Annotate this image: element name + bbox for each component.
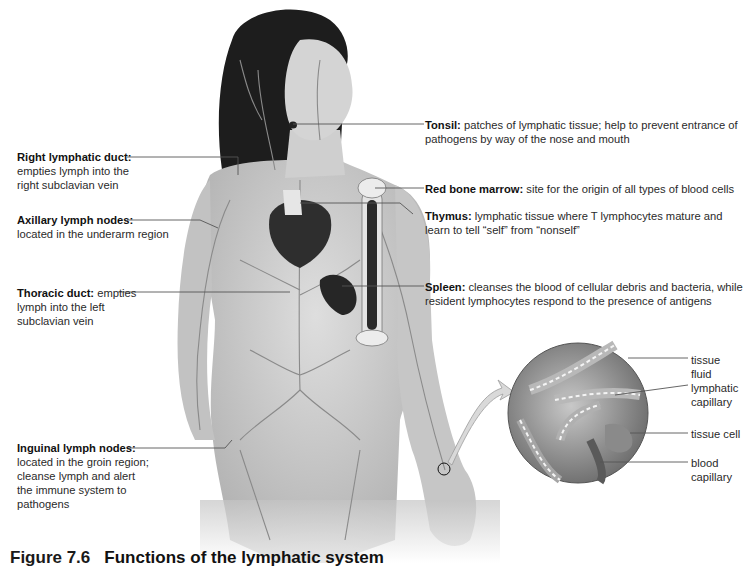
label-line: pathogens	[17, 498, 69, 510]
label-red-bone-marrow: Red bone marrow: site for the origin of …	[425, 182, 734, 196]
label-title: Axillary lymph nodes:	[17, 214, 133, 226]
figure-caption-text: Functions of the lymphatic system	[104, 548, 384, 567]
label-title: Inguinal lymph nodes:	[17, 442, 136, 454]
label-line: empties	[94, 287, 136, 299]
label-line: tissue cell	[691, 428, 740, 440]
label-blood-capillary: blood capillary	[691, 456, 732, 484]
label-title: Tonsil:	[425, 119, 461, 131]
figure-number: Figure 7.6	[10, 548, 90, 567]
label-line: resident lymphocytes respond to the pres…	[425, 295, 712, 307]
label-line: lymph into the left	[17, 301, 105, 313]
label-line: tissue	[691, 354, 720, 366]
label-line: right subclavian vein	[17, 179, 118, 191]
label-thymus: Thymus: lymphatic tissue where T lymphoc…	[425, 209, 722, 237]
label-line: cleanse lymph and alert	[17, 470, 135, 482]
figure-caption: Figure 7.6Functions of the lymphatic sys…	[10, 548, 384, 568]
magnify-arrow	[448, 380, 514, 465]
label-line: pathogens by way of the nose and mouth	[425, 133, 630, 145]
label-thoracic-duct: Thoracic duct: empties lymph into the le…	[17, 286, 136, 328]
tonsil	[289, 122, 297, 129]
label-line: the immune system to	[17, 484, 126, 496]
label-line: fluid	[691, 368, 712, 380]
label-line: located in the groin region;	[17, 456, 149, 468]
label-tonsil: Tonsil: patches of lymphatic tissue; hel…	[425, 118, 738, 146]
thymus	[283, 190, 302, 215]
label-line: lymphatic	[691, 382, 738, 394]
label-line: subclavian vein	[17, 315, 94, 327]
label-line: site for the origin of all types of bloo…	[523, 183, 734, 195]
label-right-lymphatic-duct: Right lymphatic duct: empties lymph into…	[17, 150, 131, 192]
label-title: Spleen:	[425, 281, 465, 293]
label-lymphatic-capillary: lymphatic capillary	[691, 381, 738, 409]
label-line: capillary	[691, 471, 732, 483]
label-line: capillary	[691, 396, 732, 408]
label-line: located in the underarm region	[17, 228, 169, 240]
label-axillary-lymph-nodes: Axillary lymph nodes: located in the und…	[17, 213, 169, 241]
label-title: Thoracic duct:	[17, 287, 94, 299]
label-spleen: Spleen: cleanses the blood of cellular d…	[425, 280, 743, 308]
label-line: cleanses the blood of cellular debris an…	[465, 281, 742, 293]
label-inguinal-lymph-nodes: Inguinal lymph nodes: located in the gro…	[17, 441, 149, 511]
label-line: learn to tell “self” from “nonself”	[425, 224, 580, 236]
label-tissue-cell: tissue cell	[691, 427, 740, 441]
label-title: Red bone marrow:	[425, 183, 523, 195]
label-line: blood	[691, 457, 718, 469]
label-line: empties lymph into the	[17, 165, 129, 177]
label-tissue-fluid: tissue fluid	[691, 353, 720, 381]
label-line: patches of lymphatic tissue; help to pre…	[461, 119, 738, 131]
label-title: Right lymphatic duct:	[17, 151, 131, 163]
label-line: lymphatic tissue where T lymphocytes mat…	[472, 210, 723, 222]
label-title: Thymus:	[425, 210, 472, 222]
